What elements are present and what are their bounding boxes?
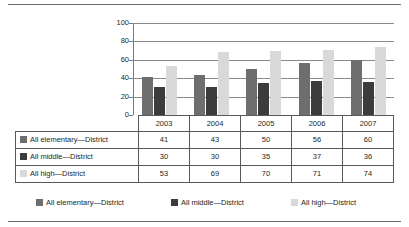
- bar: [311, 81, 322, 115]
- table-column-header: 2006: [292, 116, 343, 132]
- bar: [218, 52, 229, 115]
- table-cell: 30: [190, 149, 241, 166]
- series-color-swatch-icon: [20, 153, 27, 160]
- table-column-header: 2007: [343, 116, 394, 132]
- table-cell: 69: [190, 166, 241, 183]
- table-cell: 74: [343, 166, 394, 183]
- y-axis-tick-label: 60: [105, 56, 129, 64]
- legend-item-label: All high—District: [301, 198, 356, 207]
- y-axis-tick: [129, 60, 133, 61]
- legend-color-swatch-icon: [36, 199, 43, 206]
- y-axis-tick-labels: 020406080100: [103, 23, 129, 115]
- legend-item: All middle—District: [171, 198, 244, 207]
- table-column-header: 2004: [190, 116, 241, 132]
- bar: [323, 50, 334, 115]
- y-axis-tick: [129, 41, 133, 42]
- bar: [154, 87, 165, 115]
- y-axis-tick-label: 40: [105, 74, 129, 82]
- table-corner-cell: [16, 116, 139, 132]
- legend-item-label: All elementary—District: [46, 198, 124, 207]
- bar: [363, 82, 374, 115]
- table-row-label: All elementary—District: [30, 135, 108, 144]
- table-cell: 60: [343, 132, 394, 149]
- bar: [270, 51, 281, 115]
- bar: [206, 87, 217, 115]
- data-table-body: 20032004200520062007All elementary—Distr…: [16, 116, 394, 183]
- bar: [166, 66, 177, 115]
- table-row-label: All high—District: [30, 169, 85, 178]
- data-table: 20032004200520062007All elementary—Distr…: [15, 115, 394, 183]
- legend-color-swatch-icon: [291, 199, 298, 206]
- table-cell: 37: [292, 149, 343, 166]
- y-axis-tick: [129, 97, 133, 98]
- bottom-divider-rule: [8, 221, 401, 222]
- bar: [258, 83, 269, 115]
- series-color-swatch-icon: [20, 136, 27, 143]
- chart-legend: All elementary—DistrictAll middle—Distri…: [15, 198, 394, 210]
- table-column-header: 2003: [139, 116, 190, 132]
- bar: [299, 63, 310, 115]
- table-cell: 70: [241, 166, 292, 183]
- y-axis-tick: [129, 23, 133, 24]
- bar: [246, 69, 257, 115]
- table-row-header: All elementary—District: [16, 132, 139, 149]
- table-cell: 43: [190, 132, 241, 149]
- table-cell: 56: [292, 132, 343, 149]
- bar: [194, 75, 205, 115]
- table-cell: 35: [241, 149, 292, 166]
- y-axis-tick-label: 80: [105, 37, 129, 45]
- table-cell: 30: [139, 149, 190, 166]
- y-axis-tick-label: 20: [105, 93, 129, 101]
- y-axis-tick: [129, 78, 133, 79]
- bar: [142, 77, 153, 115]
- table-cell: 41: [139, 132, 190, 149]
- bar: [351, 60, 362, 115]
- legend-color-swatch-icon: [171, 199, 178, 206]
- table-row: All high—District5369707174: [16, 166, 394, 183]
- table-cell: 50: [241, 132, 292, 149]
- bar-group: [238, 23, 290, 115]
- bar-group: [186, 23, 238, 115]
- legend-item: All high—District: [291, 198, 356, 207]
- bar: [375, 47, 386, 115]
- table-row: All middle—District3030353736: [16, 149, 394, 166]
- bar-group: [291, 23, 343, 115]
- table-cell: 53: [139, 166, 190, 183]
- table-row-header: All high—District: [16, 166, 139, 183]
- legend-item-label: All middle—District: [181, 198, 244, 207]
- legend-item: All elementary—District: [36, 198, 124, 207]
- table-row-label: All middle—District: [30, 152, 93, 161]
- bar-group: [134, 23, 186, 115]
- table-header-row: 20032004200520062007: [16, 116, 394, 132]
- table-cell: 36: [343, 149, 394, 166]
- series-color-swatch-icon: [20, 170, 27, 177]
- y-axis-tick-label: 100: [105, 19, 129, 27]
- table-row: All elementary—District4143505660: [16, 132, 394, 149]
- bar-groups: [134, 23, 394, 115]
- table-column-header: 2005: [241, 116, 292, 132]
- bar-group: [343, 23, 395, 115]
- bar-chart-plot-area: [133, 23, 394, 115]
- table-row-header: All middle—District: [16, 149, 139, 166]
- top-divider-rule: [8, 4, 401, 5]
- table-cell: 71: [292, 166, 343, 183]
